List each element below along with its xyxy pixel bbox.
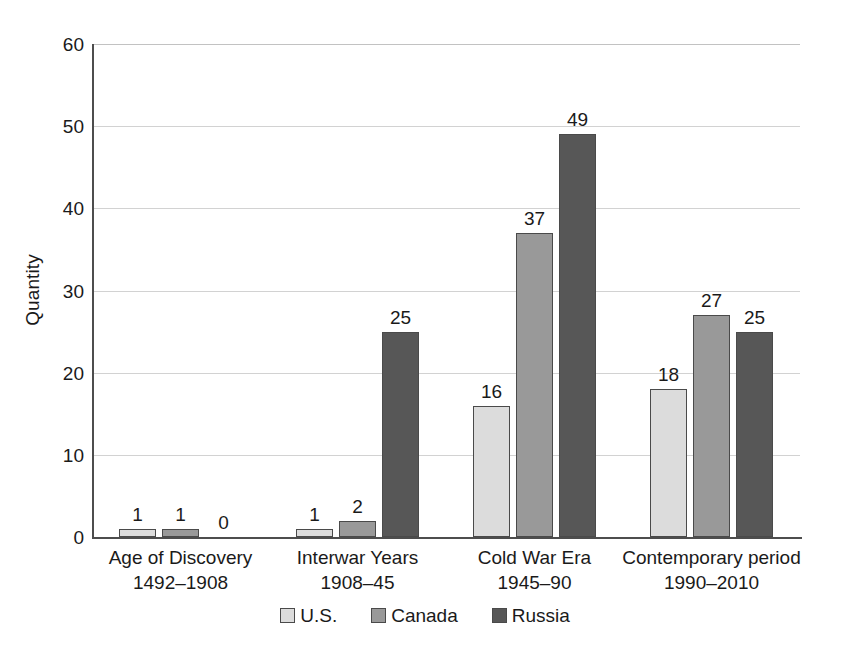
gridline bbox=[92, 44, 800, 45]
y-tick-label: 10 bbox=[24, 446, 84, 465]
legend-item: U.S. bbox=[280, 606, 337, 625]
bar bbox=[473, 406, 510, 537]
bar bbox=[559, 134, 596, 537]
bar-value-label: 0 bbox=[193, 513, 254, 532]
bar-value-label: 16 bbox=[461, 382, 522, 401]
category-label-line1: Contemporary period bbox=[622, 547, 800, 568]
bar-value-label: 49 bbox=[547, 110, 608, 129]
legend-item: Canada bbox=[371, 606, 458, 625]
y-tick-label: 40 bbox=[24, 199, 84, 218]
bar-chart: Quantity 0102030405060 11012251637491827… bbox=[0, 0, 850, 662]
y-tick-label: 30 bbox=[24, 282, 84, 301]
bar-value-label: 25 bbox=[724, 308, 785, 327]
bar bbox=[516, 233, 553, 537]
plot-area: 1101225163749182725 bbox=[92, 44, 800, 537]
bar bbox=[650, 389, 687, 537]
x-axis-line bbox=[92, 537, 802, 539]
legend-swatch bbox=[492, 608, 507, 623]
legend-label: Russia bbox=[512, 606, 570, 625]
category-label: Contemporary period1990–2010 bbox=[603, 545, 820, 595]
y-tick-label: 60 bbox=[24, 35, 84, 54]
legend-label: Canada bbox=[391, 606, 458, 625]
bar-value-label: 18 bbox=[638, 365, 699, 384]
bar bbox=[382, 332, 419, 537]
bar bbox=[119, 529, 156, 537]
gridline bbox=[92, 208, 800, 209]
y-tick-label: 20 bbox=[24, 364, 84, 383]
legend-swatch bbox=[280, 608, 295, 623]
bar bbox=[736, 332, 773, 537]
bar-value-label: 37 bbox=[504, 209, 565, 228]
bar bbox=[296, 529, 333, 537]
bar bbox=[339, 521, 376, 537]
category-label-line1: Age of Discovery bbox=[109, 547, 253, 568]
bar bbox=[693, 315, 730, 537]
legend-swatch bbox=[371, 608, 386, 623]
y-axis-line bbox=[92, 44, 94, 539]
gridline bbox=[92, 126, 800, 127]
legend-item: Russia bbox=[492, 606, 570, 625]
chart-legend: U.S.CanadaRussia bbox=[0, 606, 850, 625]
category-label-line1: Cold War Era bbox=[478, 547, 591, 568]
y-tick-label: 50 bbox=[24, 117, 84, 136]
bar-value-label: 25 bbox=[370, 308, 431, 327]
bar-value-label: 2 bbox=[327, 497, 388, 516]
category-label-line1: Interwar Years bbox=[297, 547, 418, 568]
legend-label: U.S. bbox=[300, 606, 337, 625]
category-label-line2: 1990–2010 bbox=[603, 570, 820, 595]
